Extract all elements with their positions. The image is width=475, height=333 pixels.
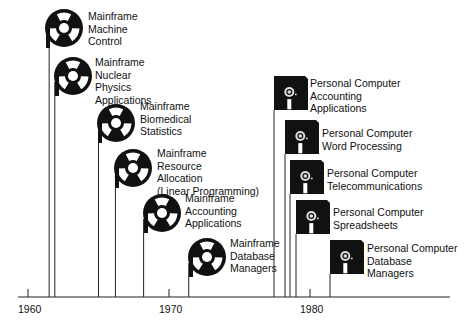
label-line: Mainframe [95, 56, 152, 69]
label-line: Applications [185, 217, 242, 230]
tape-reel-icon [45, 9, 83, 48]
floppy-disk-icon [330, 240, 364, 274]
tape-reel-icon [143, 194, 181, 233]
label-line: Mainframe [230, 237, 280, 250]
label-line: Control [88, 35, 138, 48]
label-line: Mainframe [157, 147, 259, 160]
tape-reel-icon [97, 104, 135, 143]
axis-tick-label: 1980 [300, 303, 323, 315]
label-line: Accounting [310, 90, 400, 103]
label-line: Nuclear [95, 69, 152, 82]
label-line: Personal Computer [310, 77, 400, 90]
mainframe-event-label: MainframeResourceAllocation(Linear Progr… [157, 147, 259, 197]
tape-reel-icon [114, 149, 152, 188]
timeline-diagram: 196019701980MainframeMachineControlMainf… [0, 0, 475, 333]
pc-event-label: Personal ComputerDatabaseManagers [367, 242, 457, 280]
label-line: Mainframe [88, 10, 138, 23]
label-line: Personal Computer [327, 167, 422, 180]
pc-event-label: Personal ComputerTelecommunications [327, 167, 422, 192]
label-line: Physics [95, 81, 152, 94]
tape-reel-icon [54, 57, 92, 96]
label-line: Telecommunications [327, 180, 422, 193]
label-line: Mainframe [140, 100, 191, 113]
mainframe-event-label: MainframeBiomedicalStatistics [140, 100, 191, 138]
floppy-disk-icon [274, 76, 308, 110]
label-line: Machine [88, 23, 138, 36]
pc-event-label: Personal ComputerAccountingApplications [310, 77, 400, 115]
label-line: Statistics [140, 125, 191, 138]
label-line: Word Processing [322, 140, 412, 153]
label-line: Mainframe [185, 192, 242, 205]
mainframe-event-label: MainframeNuclearPhysicsApplications [95, 56, 152, 106]
tape-reel-icon [188, 238, 226, 277]
label-line: Managers [230, 262, 280, 275]
label-line: Managers [367, 267, 457, 280]
label-line: Database [230, 250, 280, 263]
floppy-disk-icon [290, 160, 324, 194]
label-line: Database [367, 255, 457, 268]
label-line: Applications [310, 102, 400, 115]
label-line: Personal Computer [322, 127, 412, 140]
pc-event-label: Personal ComputerWord Processing [322, 127, 412, 152]
label-line: Spreadsheets [333, 219, 423, 232]
floppy-disk-icon [296, 200, 330, 234]
label-line: Accounting [185, 205, 242, 218]
floppy-disk-icon [285, 120, 319, 154]
pc-event-label: Personal ComputerSpreadsheets [333, 206, 423, 231]
mainframe-event-label: MainframeAccountingApplications [185, 192, 242, 230]
label-line: Personal Computer [333, 206, 423, 219]
label-line: Resource [157, 160, 259, 173]
mainframe-event-label: MainframeMachineControl [88, 10, 138, 48]
axis-tick-label: 1960 [18, 303, 41, 315]
mainframe-event-label: MainframeDatabaseManagers [230, 237, 280, 275]
label-line: Personal Computer [367, 242, 457, 255]
axis-tick-label: 1970 [159, 303, 182, 315]
label-line: Biomedical [140, 113, 191, 126]
label-line: Allocation [157, 172, 259, 185]
